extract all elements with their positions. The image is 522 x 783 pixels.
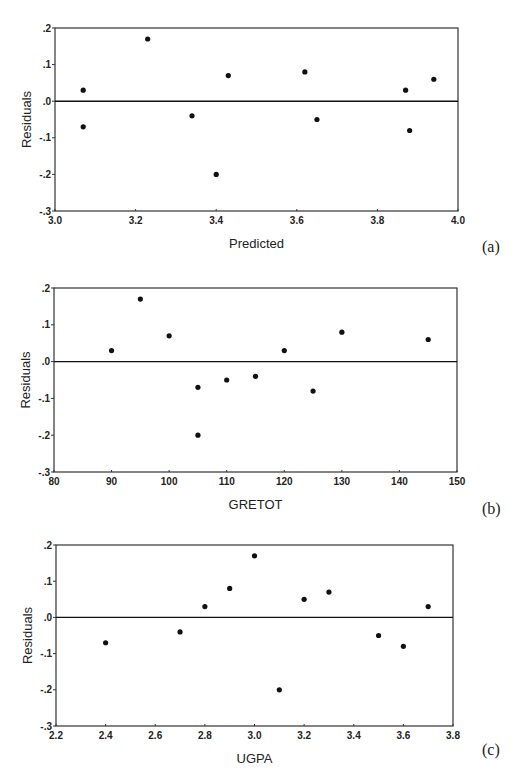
y-tick-label: .0 bbox=[44, 612, 53, 623]
x-tick-label: 2.8 bbox=[198, 730, 212, 741]
data-point bbox=[177, 629, 182, 634]
y-tick-label: -.1 bbox=[40, 648, 52, 659]
x-tick-label: 3.4 bbox=[347, 730, 361, 741]
data-point bbox=[401, 644, 406, 649]
plot-frame bbox=[56, 545, 453, 726]
x-tick-label: 2.2 bbox=[49, 730, 63, 741]
y-tick-label: .1 bbox=[44, 576, 53, 587]
data-point bbox=[426, 604, 431, 609]
data-point bbox=[202, 604, 207, 609]
data-point bbox=[326, 589, 331, 594]
x-tick-label: 3.8 bbox=[446, 730, 460, 741]
data-point bbox=[376, 633, 381, 638]
scatter-plot-c: .2.1.0-.1-.2-.32.22.42.62.83.03.23.43.63… bbox=[0, 0, 522, 783]
x-tick-label: 3.6 bbox=[396, 730, 410, 741]
data-point bbox=[252, 553, 257, 558]
y-tick-label: -.2 bbox=[40, 684, 52, 695]
x-tick-label: 3.0 bbox=[248, 730, 262, 741]
y-tick-label: .2 bbox=[44, 540, 53, 551]
data-point bbox=[277, 687, 282, 692]
x-tick-label: 2.4 bbox=[99, 730, 113, 741]
residual-plot-c: .2.1.0-.1-.2-.32.22.42.62.83.03.23.43.63… bbox=[0, 0, 522, 783]
data-point bbox=[302, 597, 307, 602]
panel-label-c: (c) bbox=[482, 741, 500, 759]
data-point bbox=[103, 640, 108, 645]
x-tick-label: 2.6 bbox=[148, 730, 162, 741]
data-point bbox=[227, 586, 232, 591]
y-axis-title: Residuals bbox=[20, 606, 35, 664]
x-axis-title: UGPA bbox=[237, 751, 273, 766]
x-tick-label: 3.2 bbox=[297, 730, 311, 741]
